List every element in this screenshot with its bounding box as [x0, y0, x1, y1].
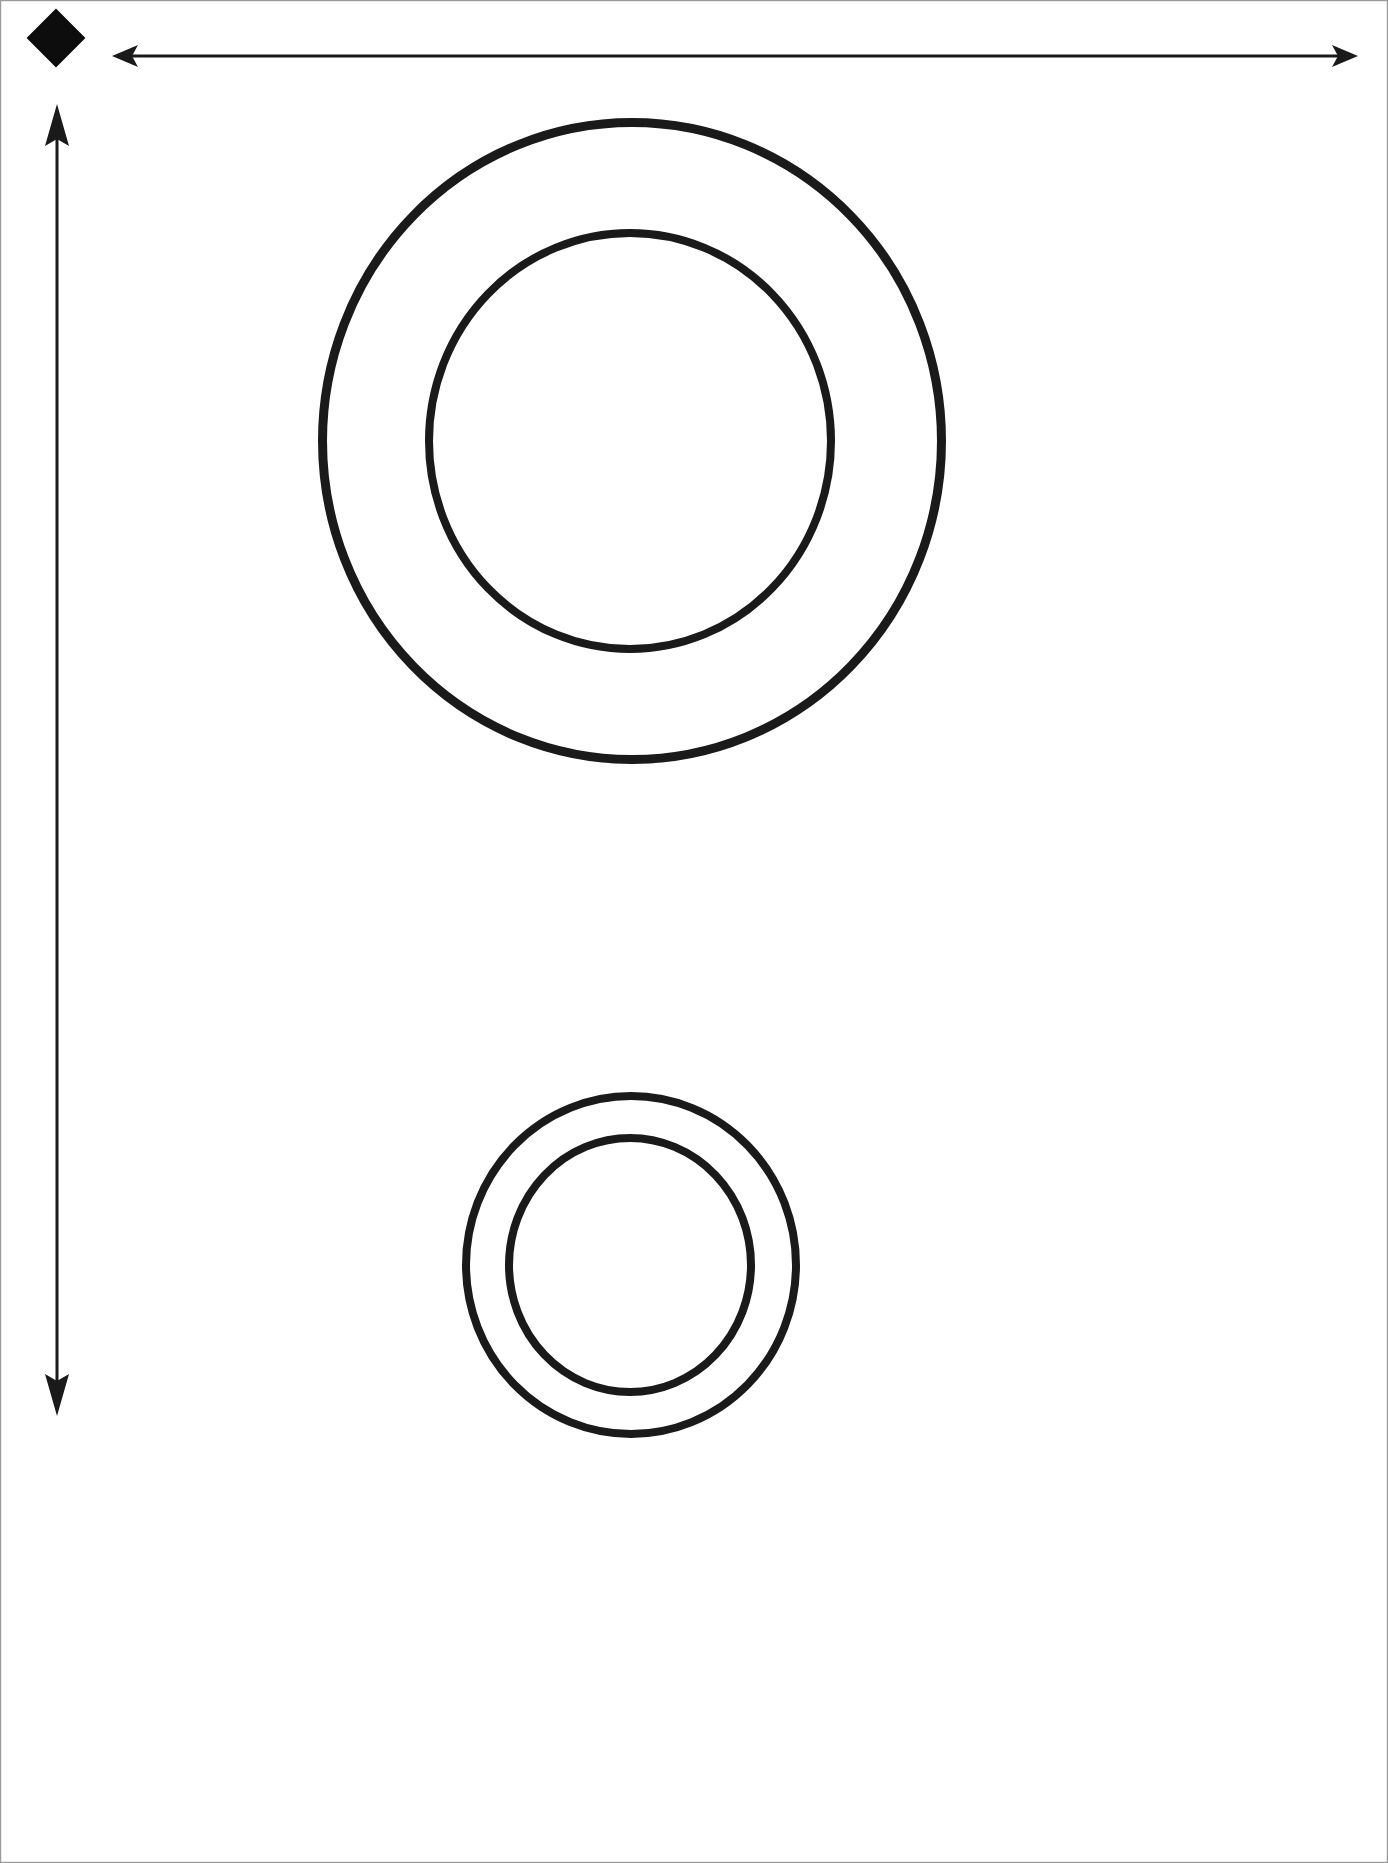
technical-drawing-svg — [0, 0, 1388, 1863]
drawing-canvas: Annular Ring Pair Technical Line Drawing… — [0, 0, 1388, 1863]
page-background — [0, 0, 1388, 1863]
